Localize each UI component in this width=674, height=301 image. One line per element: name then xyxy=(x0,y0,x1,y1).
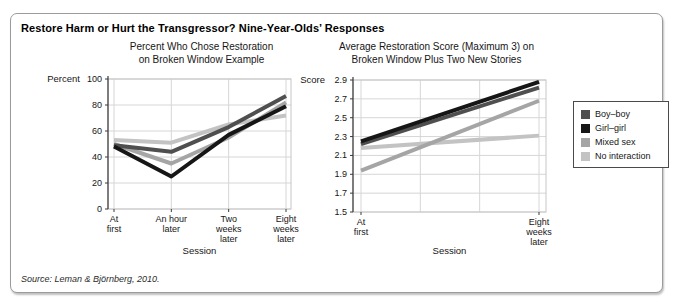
legend-item-mixed-sex: Mixed sex xyxy=(581,137,662,147)
chart-legend: Boy–boy Girl–girl Mixed sex No interacti… xyxy=(573,101,669,168)
right-chart-title-line2: Broken Window Plus Two New Stories xyxy=(299,54,574,67)
left-line-chart: 020406080100PercentAtfirstAn hourlaterTw… xyxy=(61,72,301,262)
x-tick-label: Twoweekslater xyxy=(215,214,242,244)
x-tick-label: An hourlater xyxy=(156,214,188,234)
series-lines xyxy=(361,82,539,171)
right-chart-title-line1: Average Restoration Score (Maximum 3) on xyxy=(299,41,574,54)
x-axis: AtfirstAn hourlaterTwoweekslaterEightwee… xyxy=(107,209,300,256)
y-tick-label: 2.9 xyxy=(334,75,347,85)
left-chart-title: Percent Who Chose Restoration on Broken … xyxy=(99,41,304,66)
figure-panel: Restore Harm or Hurt the Transgressor? N… xyxy=(10,13,663,293)
y-tick-label: 2.3 xyxy=(334,132,347,142)
y-tick-label: 20 xyxy=(92,178,102,188)
source-citation: Source: Leman & Björnberg, 2010. xyxy=(21,274,160,284)
y-tick-label: 2.5 xyxy=(334,113,347,123)
girl-girl-swatch xyxy=(581,124,590,133)
legend-item-boy-boy: Boy–boy xyxy=(581,109,662,119)
y-axis: 020406080100Percent xyxy=(47,73,108,214)
y-axis-title: Score xyxy=(300,74,325,85)
x-axis-title: Session xyxy=(433,245,467,256)
y-tick-label: 0 xyxy=(97,204,102,214)
x-tick-label: Atfirst xyxy=(354,217,369,237)
y-tick-label: 2.7 xyxy=(334,94,347,104)
legend-item-girl-girl: Girl–girl xyxy=(581,123,662,133)
y-tick-label: 100 xyxy=(87,74,102,84)
legend-label: Mixed sex xyxy=(595,137,636,147)
series-line-0 xyxy=(114,96,286,152)
y-tick-label: 2.1 xyxy=(334,150,347,160)
legend-label: Boy–boy xyxy=(595,109,630,119)
gridlines xyxy=(108,79,291,209)
x-tick-label: Eightweekslater xyxy=(525,217,552,247)
x-tick-label: Atfirst xyxy=(107,214,122,234)
y-axis-title: Percent xyxy=(47,73,80,84)
boy-boy-swatch xyxy=(581,110,590,119)
legend-label: Girl–girl xyxy=(595,123,626,133)
legend-label: No interaction xyxy=(595,151,651,161)
y-tick-label: 1.9 xyxy=(334,169,347,179)
y-axis: 1.51.71.92.12.32.52.72.9Score xyxy=(300,74,353,217)
left-chart-title-line1: Percent Who Chose Restoration xyxy=(99,41,304,54)
series-lines xyxy=(114,96,286,177)
y-tick-label: 40 xyxy=(92,152,102,162)
y-tick-label: 80 xyxy=(92,100,102,110)
right-chart-title: Average Restoration Score (Maximum 3) on… xyxy=(299,41,574,66)
y-tick-label: 1.7 xyxy=(334,188,347,198)
left-chart-title-line2: on Broken Window Example xyxy=(99,54,304,67)
y-tick-label: 1.5 xyxy=(334,207,347,217)
x-axis: AtfirstEightweekslaterSession xyxy=(354,212,553,256)
legend-item-no-interaction: No interaction xyxy=(581,151,662,161)
figure-title: Restore Harm or Hurt the Transgressor? N… xyxy=(21,22,384,34)
no-interaction-swatch xyxy=(581,152,590,161)
plot-frame xyxy=(108,79,291,209)
x-tick-label: Eightweekslater xyxy=(272,214,299,244)
y-tick-label: 60 xyxy=(92,126,102,136)
mixed-sex-swatch xyxy=(581,138,590,147)
right-line-chart: 1.51.71.92.12.32.52.72.9ScoreAtfirstEigh… xyxy=(311,72,561,262)
x-axis-title: Session xyxy=(183,245,217,256)
